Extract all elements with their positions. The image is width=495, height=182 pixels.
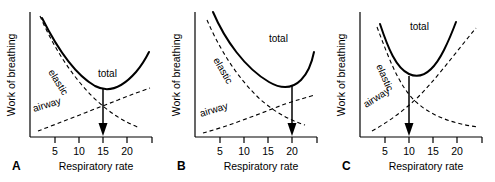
elastic-label: elastic <box>46 67 70 97</box>
panel-letter-a: A <box>12 159 21 173</box>
x-axis-label: Respiratory rate <box>201 160 321 172</box>
work-of-breathing-figure: 5 10 15 20 elastic airway total Work of … <box>0 0 495 182</box>
panel-a-plot: 5 10 15 20 elastic airway total <box>0 0 165 182</box>
airway-label: airway <box>198 100 229 119</box>
total-label: total <box>410 21 429 32</box>
panel-c-plot: 5 10 15 20 elastic airway total <box>330 0 495 182</box>
elastic-curve <box>377 27 478 127</box>
y-axis-label-text: Work of breathing <box>5 33 17 116</box>
x-tick-label-15: 15 <box>97 145 109 157</box>
optimum-arrow-head <box>288 123 297 136</box>
y-axis-label: Work of breathing <box>332 12 350 137</box>
panel-b-plot: 5 10 15 20 elastic airway total <box>165 0 330 182</box>
y-axis-label-text: Work of breathing <box>335 33 347 116</box>
elastic-label: elastic <box>211 56 235 86</box>
x-tick-label-15: 15 <box>262 145 274 157</box>
airway-label: airway <box>31 95 62 114</box>
total-label: total <box>98 68 117 79</box>
y-axis-label: Work of breathing <box>2 12 20 137</box>
x-tick-label-5: 5 <box>382 145 388 157</box>
airway-curve <box>38 88 150 131</box>
optimum-arrow-head <box>99 123 108 136</box>
x-tick-label-10: 10 <box>403 145 415 157</box>
panel-b: 5 10 15 20 elastic airway total Work of … <box>165 0 330 182</box>
airway-curve <box>203 95 315 133</box>
x-tick-label-20: 20 <box>121 145 133 157</box>
y-axis-label-text: Work of breathing <box>170 33 182 116</box>
x-axis-label: Respiratory rate <box>366 160 486 172</box>
panel-letter-c: C <box>342 159 351 173</box>
panel-c: 5 10 15 20 elastic airway total Work of … <box>330 0 495 182</box>
x-tick-label-5: 5 <box>52 145 58 157</box>
airway-label: airway <box>361 85 391 110</box>
x-axis-label: Respiratory rate <box>36 160 156 172</box>
y-axis-label: Work of breathing <box>167 12 185 137</box>
optimum-arrow-head <box>405 123 414 136</box>
x-tick-label-10: 10 <box>73 145 85 157</box>
x-tick-label-5: 5 <box>217 145 223 157</box>
panel-letter-b: B <box>177 159 186 173</box>
x-tick-label-20: 20 <box>451 145 463 157</box>
x-tick-label-10: 10 <box>238 145 250 157</box>
total-label: total <box>269 33 288 44</box>
x-tick-label-15: 15 <box>427 145 439 157</box>
x-tick-label-20: 20 <box>286 145 298 157</box>
panel-a: 5 10 15 20 elastic airway total Work of … <box>0 0 165 182</box>
